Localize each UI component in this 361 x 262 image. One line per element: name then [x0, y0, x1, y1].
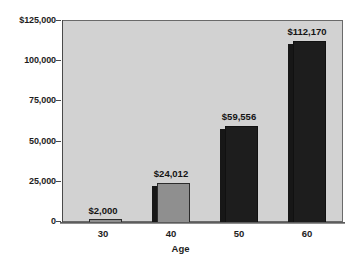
y-tickmark	[56, 20, 61, 21]
bar-value-label-40: $24,012	[131, 168, 211, 179]
bar-chart: $125,000 100,000 75,000 50,000 25,000 0 …	[0, 0, 361, 262]
x-axis-line	[60, 222, 345, 224]
y-axis-line	[62, 20, 63, 223]
y-tickmark	[56, 100, 61, 101]
y-tick-0: $125,000	[0, 15, 61, 26]
x-axis-title: Age	[0, 243, 361, 254]
y-tick-label: 0	[0, 216, 56, 226]
bar-face	[293, 41, 326, 224]
x-tick-label-60: 60	[277, 228, 337, 239]
x-tick-label-40: 40	[141, 228, 201, 239]
y-tick-label: 75,000	[0, 95, 56, 105]
bar-value-label-50: $59,556	[199, 111, 279, 122]
bar-40[interactable]	[152, 183, 190, 224]
y-tick-label: 50,000	[0, 136, 56, 146]
y-tick-label: $125,000	[0, 15, 56, 25]
y-tickmark	[56, 141, 61, 142]
y-tick-5: 0	[0, 216, 61, 227]
bar-face	[157, 183, 190, 224]
y-tickmark	[56, 60, 61, 61]
x-tick-label-30: 30	[73, 228, 133, 239]
bar-face	[225, 126, 258, 224]
x-tick-label-50: 50	[209, 228, 269, 239]
bar-50[interactable]	[220, 126, 258, 224]
bar-value-label-60: $112,170	[267, 26, 347, 37]
bar-value-label-30: $2,000	[63, 205, 143, 216]
y-tick-label: 100,000	[0, 55, 56, 65]
y-tick-1: 100,000	[0, 55, 61, 66]
y-tickmark	[56, 181, 61, 182]
y-tick-4: 25,000	[0, 176, 61, 187]
y-tick-3: 50,000	[0, 136, 61, 147]
y-tick-label: 25,000	[0, 176, 56, 186]
y-tick-2: 75,000	[0, 95, 61, 106]
bar-60[interactable]	[288, 41, 326, 224]
